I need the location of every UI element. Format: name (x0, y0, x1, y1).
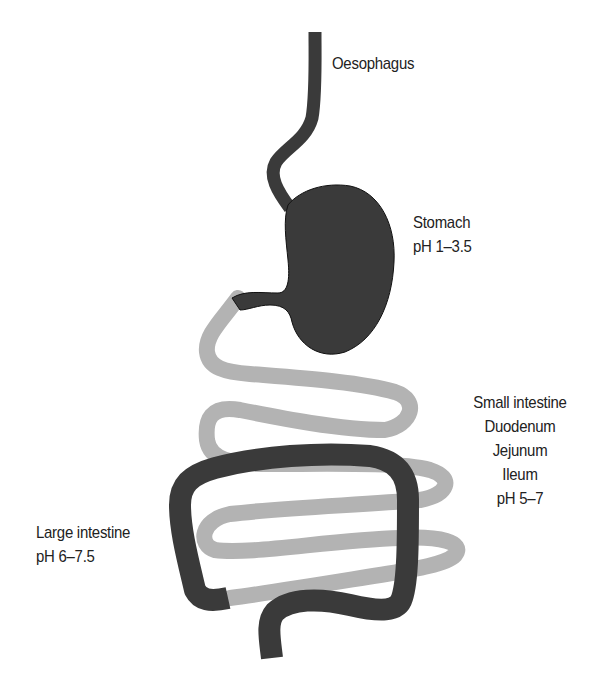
stomach-shape (232, 185, 394, 354)
digestive-tract-diagram (0, 0, 602, 689)
small-intestine-ph: pH 5–7 (444, 487, 595, 511)
small-intestine-jejunum: Jejunum (444, 439, 595, 463)
stomach-ph: pH 1–3.5 (413, 235, 472, 259)
large-intestine-label: Large intestine pH 6–7.5 (36, 521, 130, 569)
small-intestine-label: Small intestine Duodenum Jejunum Ileum p… (444, 391, 595, 511)
small-intestine-ileum: Ileum (444, 463, 595, 487)
small-intestine-name: Small intestine (444, 391, 595, 415)
oesophagus-name: Oesophagus (332, 52, 414, 76)
large-intestine-ph: pH 6–7.5 (36, 545, 130, 569)
large-intestine-name: Large intestine (36, 521, 130, 545)
stomach-label: Stomach pH 1–3.5 (413, 211, 472, 259)
stomach-name: Stomach (413, 211, 472, 235)
small-intestine-duodenum: Duodenum (444, 415, 595, 439)
oesophagus-label: Oesophagus (332, 52, 414, 76)
oesophagus-shape (273, 32, 315, 208)
